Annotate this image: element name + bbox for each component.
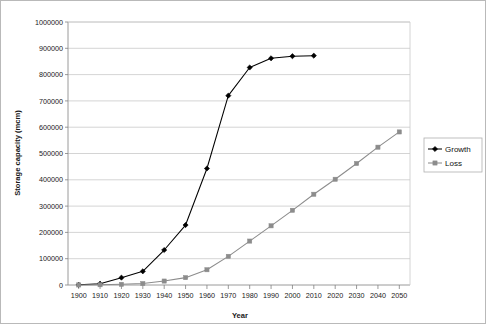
series-growth xyxy=(76,53,316,287)
data-point-marker xyxy=(162,279,166,283)
data-point-marker xyxy=(354,161,358,165)
data-point-marker xyxy=(290,54,295,59)
x-tick-label: 1950 xyxy=(178,291,194,300)
data-point-marker xyxy=(312,192,316,196)
y-tick-label: 400000 xyxy=(39,175,63,184)
y-tick-label: 700000 xyxy=(39,97,63,106)
data-point-marker xyxy=(311,53,316,58)
data-point-marker xyxy=(119,282,123,286)
data-point-marker xyxy=(376,145,380,149)
x-tick-label: 2040 xyxy=(370,291,386,300)
data-point-marker xyxy=(205,268,209,272)
y-tick-label: 1000000 xyxy=(35,18,63,27)
chart-container: 0100000200000300000400000500000600000700… xyxy=(0,0,487,325)
y-tick-label: 200000 xyxy=(39,228,63,237)
y-tick-label: 900000 xyxy=(39,44,63,53)
legend-label: Loss xyxy=(445,159,462,168)
y-tick-label: 0 xyxy=(59,281,63,290)
x-tick-label: 2010 xyxy=(306,291,322,300)
legend: GrowthLoss xyxy=(424,138,482,172)
data-point-marker xyxy=(397,130,401,134)
x-tick-label: 1900 xyxy=(71,291,87,300)
x-axis-ticks: 1900191019201930194019501960197019801990… xyxy=(71,285,408,300)
y-tick-label: 500000 xyxy=(39,149,63,158)
x-tick-label: 1920 xyxy=(113,291,129,300)
data-point-marker xyxy=(204,166,209,171)
series-line xyxy=(79,56,314,285)
data-series-group xyxy=(76,53,401,287)
data-point-marker xyxy=(77,283,81,287)
series-line xyxy=(79,132,400,285)
data-point-marker xyxy=(141,281,145,285)
data-point-marker xyxy=(269,224,273,228)
data-point-marker xyxy=(183,276,187,280)
data-point-marker xyxy=(98,283,102,287)
x-tick-label: 1910 xyxy=(92,291,108,300)
y-tick-label: 800000 xyxy=(39,70,63,79)
line-chart: 0100000200000300000400000500000600000700… xyxy=(0,0,487,325)
x-tick-label: 1970 xyxy=(220,291,236,300)
y-axis-title: Storage capacity (mcm) xyxy=(13,110,22,196)
x-tick-label: 1980 xyxy=(242,291,258,300)
x-tick-label: 1940 xyxy=(156,291,172,300)
y-axis-ticks: 0100000200000300000400000500000600000700… xyxy=(35,18,68,290)
x-tick-label: 1930 xyxy=(135,291,151,300)
legend-marker xyxy=(433,161,437,165)
x-axis-title: Year xyxy=(232,311,248,320)
x-tick-label: 1990 xyxy=(263,291,279,300)
legend-label: Growth xyxy=(445,145,471,154)
x-tick-label: 2030 xyxy=(349,291,365,300)
y-tick-label: 600000 xyxy=(39,123,63,132)
x-tick-label: 2000 xyxy=(284,291,300,300)
data-point-marker xyxy=(290,208,294,212)
data-point-marker xyxy=(268,56,273,61)
y-tick-label: 100000 xyxy=(39,254,63,263)
y-tick-label: 300000 xyxy=(39,202,63,211)
data-point-marker xyxy=(226,254,230,258)
data-point-marker xyxy=(333,177,337,181)
data-point-marker xyxy=(119,275,124,280)
x-tick-label: 2020 xyxy=(327,291,343,300)
gridlines-group xyxy=(68,22,410,259)
x-tick-label: 1960 xyxy=(199,291,215,300)
x-tick-label: 2050 xyxy=(391,291,407,300)
data-point-marker xyxy=(248,239,252,243)
